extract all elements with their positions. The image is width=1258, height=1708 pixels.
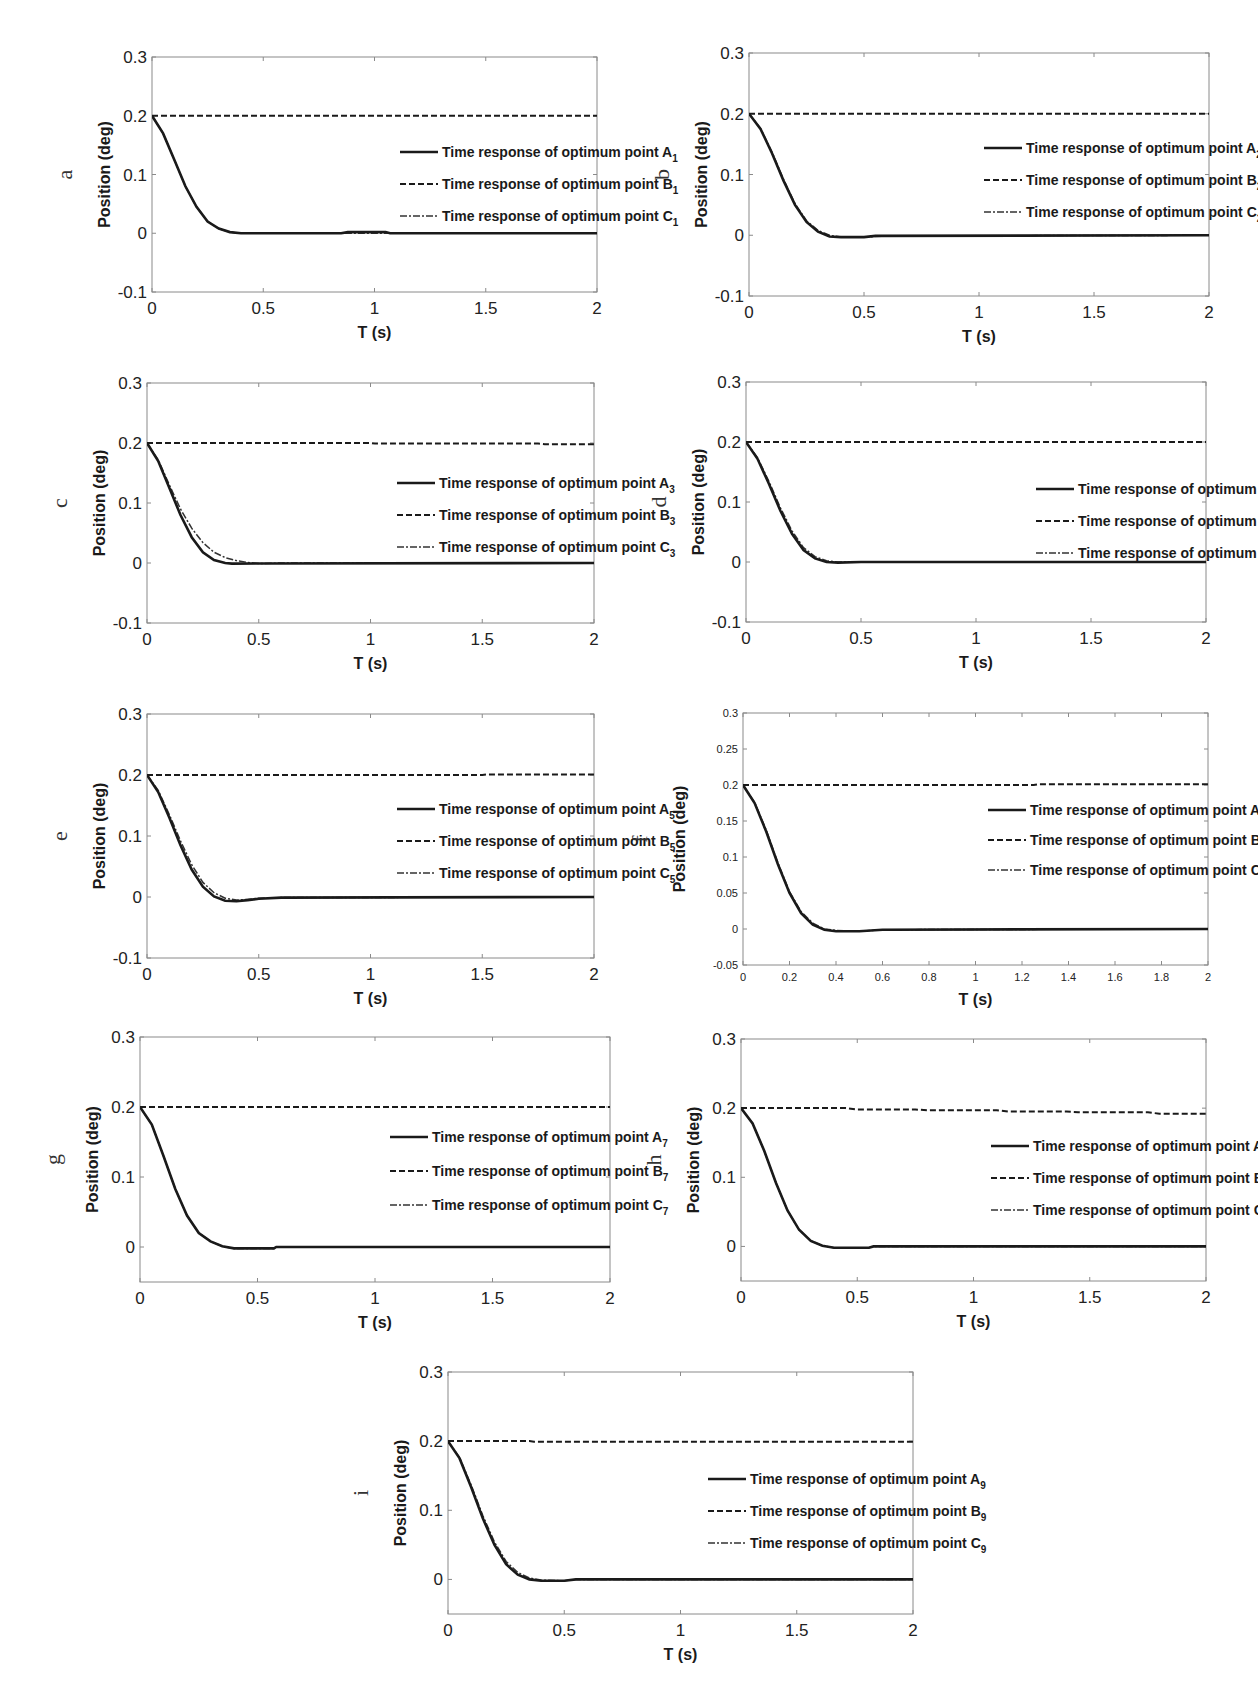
legend-entry: Time response of optimum point A6 bbox=[1030, 802, 1258, 822]
y-tick-label: 0.1 bbox=[118, 494, 142, 513]
y-tick-label: 0.3 bbox=[123, 48, 147, 67]
plot-area bbox=[448, 1372, 913, 1614]
x-tick-label: 0 bbox=[736, 1288, 745, 1307]
x-tick-label: 2 bbox=[589, 965, 598, 984]
x-tick-label: 0 bbox=[741, 629, 750, 648]
x-tick-label: 1 bbox=[366, 965, 375, 984]
y-tick-label: 0.3 bbox=[419, 1363, 443, 1382]
panel-letter: i bbox=[348, 1490, 373, 1496]
legend: Time response of optimum point A3Time re… bbox=[397, 475, 676, 559]
legend-entry: Time response of optimum point A4 bbox=[1078, 481, 1258, 501]
legend: Time response of optimum point A7Time re… bbox=[390, 1129, 669, 1217]
y-tick-label: 0 bbox=[434, 1570, 443, 1589]
x-tick-label: 0.5 bbox=[251, 299, 275, 318]
chart-panel-c: 00.511.52-0.100.10.20.3T (s)Position (de… bbox=[147, 383, 594, 623]
legend-entry: Time response of optimum point B8 bbox=[1033, 1170, 1258, 1190]
y-tick-label: 0 bbox=[133, 554, 142, 573]
y-tick-label: 0.1 bbox=[717, 493, 741, 512]
x-tick-label: 0 bbox=[744, 303, 753, 322]
y-tick-label: 0 bbox=[727, 1237, 736, 1256]
legend-entry: Time response of optimum point C7 bbox=[432, 1197, 669, 1217]
y-tick-label: 0.2 bbox=[111, 1098, 135, 1117]
y-tick-label: 0 bbox=[126, 1238, 135, 1257]
x-tick-label: 1.5 bbox=[1078, 1288, 1102, 1307]
series-B3 bbox=[147, 443, 594, 444]
y-tick-label: 0.2 bbox=[118, 434, 142, 453]
legend-entry: Time response of optimum point A9 bbox=[750, 1471, 986, 1491]
y-axis-label: Position (deg) bbox=[91, 783, 108, 890]
panel-letter: c bbox=[47, 498, 72, 508]
legend-entry: Time response of optimum point C6 bbox=[1030, 862, 1258, 882]
panel-letter: g bbox=[40, 1154, 65, 1165]
x-tick-label: 2 bbox=[589, 630, 598, 649]
chart-panel-b: 00.511.52-0.100.10.20.3T (s)Position (de… bbox=[749, 53, 1209, 296]
panel-letter: h bbox=[641, 1155, 666, 1166]
y-axis-label: Position (deg) bbox=[84, 1106, 101, 1213]
chart-panel-d: 00.511.52-0.100.10.20.3T (s)Position (de… bbox=[746, 382, 1206, 622]
y-tick-label: 0.2 bbox=[723, 779, 738, 791]
x-tick-label: 2 bbox=[908, 1621, 917, 1640]
y-tick-label: 0 bbox=[732, 923, 738, 935]
x-tick-label: 2 bbox=[1201, 629, 1210, 648]
x-tick-label: 1.6 bbox=[1107, 971, 1122, 983]
legend-entry: Time response of optimum point A7 bbox=[432, 1129, 668, 1149]
series-B5 bbox=[147, 774, 594, 775]
panel-letter: b bbox=[649, 169, 674, 180]
plot-area bbox=[140, 1037, 610, 1282]
y-tick-label: 0.05 bbox=[717, 887, 738, 899]
legend: Time response of optimum point A6Time re… bbox=[988, 802, 1258, 882]
y-tick-label: -0.1 bbox=[113, 949, 142, 968]
series-B8 bbox=[741, 1108, 1206, 1114]
y-tick-label: 0.25 bbox=[717, 743, 738, 755]
x-tick-label: 1 bbox=[972, 971, 978, 983]
legend-entry: Time response of optimum point B3 bbox=[439, 507, 676, 527]
x-tick-label: 0 bbox=[147, 299, 156, 318]
x-axis-label: T (s) bbox=[962, 328, 996, 345]
y-tick-label: 0.2 bbox=[123, 107, 147, 126]
y-tick-label: -0.1 bbox=[113, 614, 142, 633]
y-tick-label: 0.1 bbox=[712, 1168, 736, 1187]
x-tick-label: 0.5 bbox=[552, 1621, 576, 1640]
x-axis-label: T (s) bbox=[358, 1314, 392, 1331]
y-axis-label: Position (deg) bbox=[91, 450, 108, 557]
legend-entry: Time response of optimum point B6 bbox=[1030, 832, 1258, 852]
chart-panel-e: 00.511.52-0.100.10.20.3T (s)Position (de… bbox=[147, 714, 594, 958]
x-tick-label: 0.5 bbox=[247, 965, 271, 984]
x-tick-label: 1 bbox=[370, 1289, 379, 1308]
y-tick-label: 0.1 bbox=[123, 166, 147, 185]
y-tick-label: 0.3 bbox=[111, 1028, 135, 1047]
x-tick-label: 0.5 bbox=[845, 1288, 869, 1307]
legend-entry: Time response of optimum point B2 bbox=[1026, 172, 1258, 192]
x-tick-label: 0 bbox=[135, 1289, 144, 1308]
panel-letter: a bbox=[52, 169, 77, 179]
y-tick-label: -0.1 bbox=[118, 283, 147, 302]
y-tick-label: 0 bbox=[735, 226, 744, 245]
y-axis-label: Position (deg) bbox=[96, 121, 113, 228]
panel-letter: d bbox=[646, 497, 671, 508]
legend-entry: Time response of optimum point B1 bbox=[442, 176, 679, 196]
x-tick-label: 0.5 bbox=[849, 629, 873, 648]
x-tick-label: 0 bbox=[443, 1621, 452, 1640]
y-tick-label: 0.2 bbox=[712, 1099, 736, 1118]
x-tick-label: 2 bbox=[1204, 303, 1213, 322]
y-axis-label: Position (deg) bbox=[690, 449, 707, 556]
x-tick-label: 1 bbox=[370, 299, 379, 318]
x-tick-label: 0.5 bbox=[247, 630, 271, 649]
x-axis-label: T (s) bbox=[957, 1313, 991, 1330]
legend: Time response of optimum point A9Time re… bbox=[708, 1471, 987, 1555]
y-tick-label: 0 bbox=[138, 224, 147, 243]
x-tick-label: 2 bbox=[605, 1289, 614, 1308]
x-tick-label: 0.5 bbox=[246, 1289, 270, 1308]
x-axis-label: T (s) bbox=[959, 991, 993, 1008]
x-tick-label: 0 bbox=[142, 630, 151, 649]
y-tick-label: 0.3 bbox=[720, 44, 744, 63]
x-tick-label: 1.2 bbox=[1014, 971, 1029, 983]
y-tick-label: 0.1 bbox=[118, 827, 142, 846]
x-tick-label: 1 bbox=[974, 303, 983, 322]
y-tick-label: 0.1 bbox=[723, 851, 738, 863]
y-tick-label: -0.05 bbox=[713, 959, 738, 971]
series-C4 bbox=[746, 442, 1206, 562]
series-B6 bbox=[743, 784, 1208, 785]
y-tick-label: -0.1 bbox=[712, 613, 741, 632]
x-tick-label: 1 bbox=[676, 1621, 685, 1640]
